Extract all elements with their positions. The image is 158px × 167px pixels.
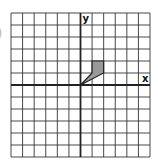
x-axis-label: x — [142, 73, 149, 84]
coordinate-grid: x y — [0, 0, 158, 167]
y-axis-label: y — [83, 13, 90, 24]
